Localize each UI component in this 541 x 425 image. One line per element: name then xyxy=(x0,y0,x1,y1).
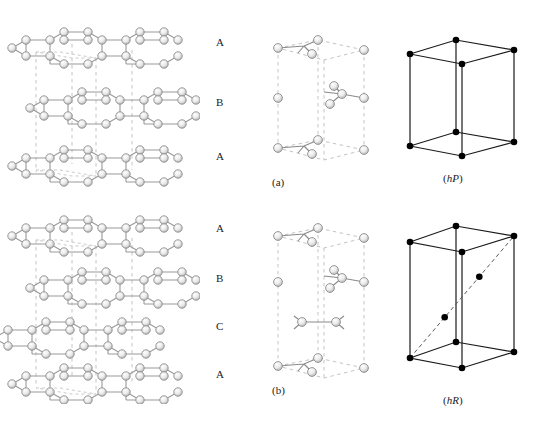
layer-label-b-a-top: A xyxy=(216,222,224,234)
layer-label-a-top: A xyxy=(216,36,224,48)
sublabel-b: (b) xyxy=(272,384,285,396)
layer-label-a-middle: B xyxy=(216,96,223,108)
abca-stack-svg xyxy=(0,204,200,404)
panel-b-layers xyxy=(0,204,200,404)
layer-a-bottom xyxy=(8,146,182,186)
layer-b3-c xyxy=(0,318,164,358)
lattice-hp-svg xyxy=(398,22,533,172)
panel-a-unitcell xyxy=(268,20,388,170)
layer-label-a-bottom: A xyxy=(216,150,224,162)
figure-root: A B A xyxy=(0,0,541,425)
layer-b1-a-top xyxy=(8,216,182,256)
panel-b-unitcell xyxy=(268,212,388,392)
lattice-label-hp-close: ) xyxy=(459,172,463,184)
layer-a-top xyxy=(8,28,182,68)
cell-atoms-a xyxy=(274,36,369,159)
layer-label-b-c: C xyxy=(216,320,223,332)
lattice-label-hp-p: P xyxy=(452,172,459,184)
figure-caption xyxy=(0,411,541,425)
layer-label-b-b: B xyxy=(216,272,223,284)
sublabel-a: (a) xyxy=(272,176,284,188)
lattice-label-hp: (hP) xyxy=(443,172,463,184)
aba-stack-svg xyxy=(0,14,200,189)
unitcell-a-svg xyxy=(268,20,388,170)
panel-a-lattice xyxy=(398,22,533,172)
lattice-hr-svg xyxy=(398,212,533,392)
hp-cell-edges xyxy=(410,40,514,156)
layer-b2-b xyxy=(26,268,200,308)
lattice-label-hr-close: ) xyxy=(459,394,463,406)
cell-atoms-b xyxy=(274,224,369,377)
unitcell-b-svg xyxy=(268,212,388,392)
layer-label-b-a-bottom: A xyxy=(216,368,224,380)
lattice-label-hr: (hR) xyxy=(443,394,463,406)
panel-b-lattice xyxy=(398,212,533,392)
layer-b-middle xyxy=(26,88,200,128)
panel-a-layers xyxy=(0,14,200,189)
cell-bonds-b xyxy=(278,228,364,372)
layer-b4-a-bottom xyxy=(8,364,182,404)
lattice-label-hr-r: R xyxy=(452,394,459,406)
